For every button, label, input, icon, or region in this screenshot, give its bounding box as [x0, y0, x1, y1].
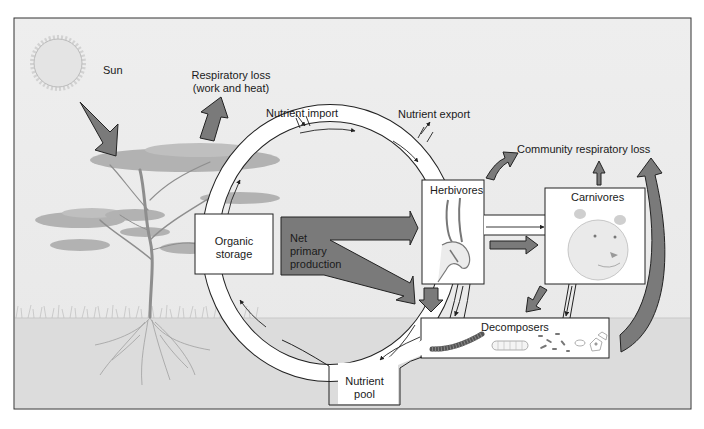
organic-storage-label: Organic storage — [195, 235, 273, 261]
carnivores-label: Carnivores — [571, 191, 624, 204]
grub-illustration — [492, 341, 528, 350]
decomposers-label: Decomposers — [481, 321, 549, 334]
community-respiratory-loss-label: Community respiratory loss — [517, 143, 650, 156]
respiratory-loss-label-line1: Respiratory loss — [186, 69, 276, 82]
nutrient-pool-label-line1: Nutrient — [329, 375, 400, 388]
respiratory-loss-label: Respiratory loss (work and heat) — [186, 69, 276, 95]
herbivores-label: Herbivores — [430, 184, 483, 197]
sun-label: Sun — [103, 64, 123, 77]
respiratory-loss-label-line2: (work and heat) — [186, 82, 276, 95]
ecosystem-diagram: Sun Respiratory loss (work and heat) Nut… — [0, 0, 704, 429]
organic-storage-label-line1: Organic — [195, 235, 273, 248]
net-primary-production-label: Net primary production — [290, 232, 341, 271]
npp-label-line1: Net — [290, 232, 341, 245]
organic-storage-label-line2: storage — [195, 248, 273, 261]
nutrient-pool-label: Nutrient pool — [329, 375, 400, 401]
nutrient-export-label: Nutrient export — [398, 108, 470, 121]
herbivore-carnivore-channel — [484, 215, 546, 235]
npp-label-line3: production — [290, 258, 341, 271]
npp-label-line2: primary — [290, 245, 341, 258]
nutrient-pool-label-line2: pool — [329, 388, 400, 401]
nutrient-import-label: Nutrient import — [266, 107, 338, 120]
